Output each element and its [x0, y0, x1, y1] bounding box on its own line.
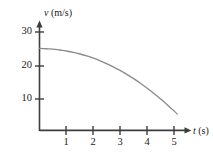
y-tick-label-20: 20 — [10, 60, 32, 71]
y-tick-label-10: 10 — [10, 93, 32, 104]
plot-canvas — [0, 0, 213, 154]
y-axis-unit: (m/s) — [48, 7, 72, 18]
x-tick-label-1: 1 — [56, 137, 76, 148]
velocity-time-graph-figure: 30 20 10 1 2 3 4 5 v (m/s) t (s) — [0, 0, 213, 154]
velocity-curve — [40, 48, 178, 114]
x-axis-arrow-icon — [185, 127, 192, 133]
y-axis-arrow-icon — [36, 21, 42, 28]
y-axis-caption: v (m/s) — [44, 8, 72, 18]
x-tick-label-5: 5 — [164, 137, 184, 148]
x-tick-label-2: 2 — [83, 137, 103, 148]
x-axis-unit: (s) — [196, 125, 209, 136]
x-tick-label-4: 4 — [137, 137, 157, 148]
y-tick-label-30: 30 — [10, 26, 32, 37]
x-axis-caption: t (s) — [193, 126, 209, 136]
x-tick-label-3: 3 — [110, 137, 130, 148]
